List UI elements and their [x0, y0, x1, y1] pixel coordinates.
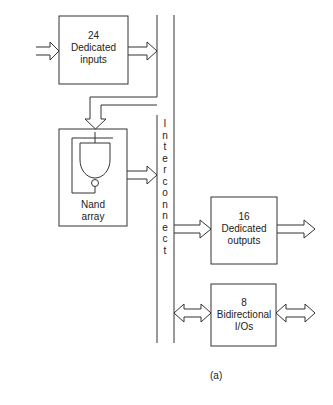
bus-to-outputs-arrow-icon — [174, 220, 211, 238]
interconnect-letter: n — [160, 130, 170, 142]
interconnect-letter: e — [160, 153, 170, 165]
outputs-block-label: 16 Dedicated outputs — [211, 211, 277, 247]
inputs-line1: Dedicated — [59, 42, 128, 54]
nand-array-label: Nand array — [59, 199, 127, 223]
bidir-block-label: 8 Bidirectional I/Os — [209, 297, 279, 333]
interconnect-letter: n — [160, 210, 170, 222]
interconnect-letter: c — [160, 176, 170, 188]
interconnect-letter: t — [160, 141, 170, 153]
nand-gate-icon — [72, 132, 113, 193]
inputs-count: 24 — [59, 30, 128, 42]
interconnect-letter: n — [160, 199, 170, 211]
inputs-block-label: 24 Dedicated inputs — [59, 30, 128, 66]
interconnect-letter: c — [160, 233, 170, 245]
interconnect-label: I n t e r c o n n e c t — [160, 118, 170, 256]
outputs-count: 16 — [211, 211, 277, 223]
outputs-line2: outputs — [211, 235, 277, 247]
interconnect-letter: t — [160, 245, 170, 257]
outputs-line1: Dedicated — [211, 223, 277, 235]
bidir-count: 8 — [209, 297, 279, 309]
interconnect-letter: r — [160, 164, 170, 176]
bus-to-nand-arrow-icon — [85, 97, 157, 129]
inputs-to-bus-arrow-icon — [128, 42, 157, 60]
nand-line2: array — [59, 211, 127, 223]
output-arrow-icon — [277, 220, 315, 238]
bidir-external-arrow-icon — [276, 304, 315, 322]
figure-caption: (a) — [210, 370, 222, 381]
input-arrow-icon — [36, 42, 59, 60]
bidir-line2: I/Os — [209, 321, 279, 333]
inputs-line2: inputs — [59, 54, 128, 66]
interconnect-letter: o — [160, 187, 170, 199]
nand-line1: Nand — [59, 199, 127, 211]
nand-to-bus-arrow-icon — [127, 166, 157, 184]
interconnect-letter: e — [160, 222, 170, 234]
interconnect-letter: I — [160, 118, 170, 130]
bus-bidir-arrow-icon — [174, 304, 211, 322]
bidir-line1: Bidirectional — [209, 309, 279, 321]
